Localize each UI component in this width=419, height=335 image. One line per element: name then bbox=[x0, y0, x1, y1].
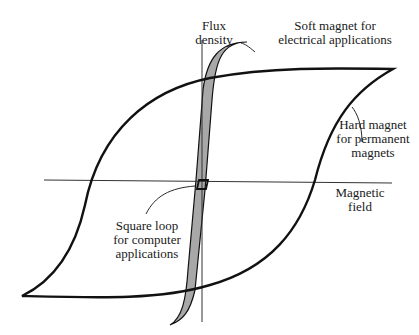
x-axis bbox=[44, 180, 392, 183]
square-loop-annotation-line-3: applications bbox=[102, 247, 192, 261]
diagram-svg bbox=[0, 0, 419, 335]
hard-magnet-annotation-line-2: for permanent bbox=[328, 132, 418, 146]
x-axis-label: Magnetic field bbox=[320, 186, 400, 214]
square-loop-annotation: Square loop for computer applications bbox=[102, 219, 192, 261]
y-axis-label-line-2: density bbox=[184, 33, 244, 47]
x-axis-label-line-1: Magnetic bbox=[320, 186, 400, 200]
soft-magnet-annotation-line-1: Soft magnet for bbox=[250, 19, 419, 33]
soft-magnet-annotation: Soft magnet for electrical applications bbox=[250, 19, 419, 47]
soft-magnet-annotation-line-2: electrical applications bbox=[250, 33, 419, 47]
hysteresis-diagram: Flux density Soft magnet for electrical … bbox=[0, 0, 419, 335]
hard-magnet-annotation-line-1: Hard magnet bbox=[328, 118, 418, 132]
hard-magnet-annotation-line-3: magnets bbox=[328, 146, 418, 160]
square-loop-leader bbox=[146, 186, 195, 214]
x-axis-label-line-2: field bbox=[320, 200, 400, 214]
y-axis-label: Flux density bbox=[184, 19, 244, 47]
y-axis-label-line-1: Flux bbox=[184, 19, 244, 33]
square-loop-annotation-line-1: Square loop bbox=[102, 219, 192, 233]
square-loop-annotation-line-2: for computer bbox=[102, 233, 192, 247]
hard-magnet-annotation: Hard magnet for permanent magnets bbox=[328, 118, 418, 160]
soft-magnet-loop bbox=[170, 42, 247, 325]
